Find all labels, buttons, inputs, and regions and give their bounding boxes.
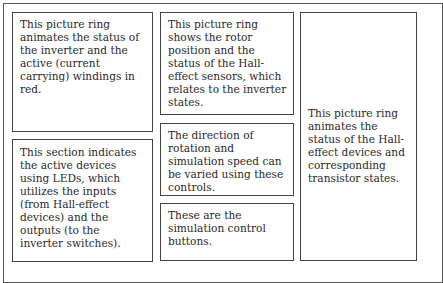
direction-speed-controls-annotation: The direction of rotation and simulation… (160, 123, 294, 196)
annotation-text: This picture ring animates the status of… (308, 107, 410, 185)
hall-transistor-ring-annotation: This picture ring animates the status of… (300, 12, 417, 261)
inverter-ring-annotation: This picture ring animates the status of… (12, 12, 153, 132)
annotation-text: The direction of rotation and simulation… (168, 129, 287, 194)
annotation-text: This picture ring animates the status of… (20, 18, 146, 96)
simulation-buttons-annotation: These are the simulation control buttons… (160, 203, 294, 261)
annotation-text: This picture ring shows the rotor positi… (168, 18, 287, 109)
annotation-text: These are the simulation control buttons… (168, 209, 287, 248)
annotation-text: This section indicates the active device… (20, 146, 146, 250)
rotor-ring-annotation: This picture ring shows the rotor positi… (160, 12, 294, 115)
led-section-annotation: This section indicates the active device… (12, 139, 153, 262)
